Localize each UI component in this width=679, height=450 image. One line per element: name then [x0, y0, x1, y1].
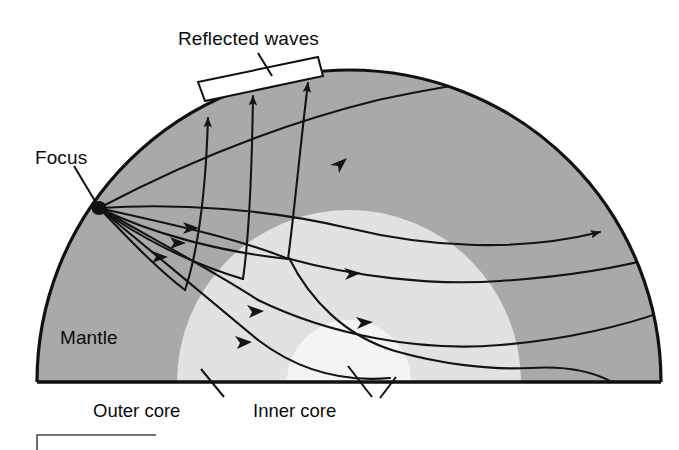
- focus-point-marker: [92, 201, 107, 215]
- caption-box-fragment: [37, 435, 156, 450]
- label-inner-core: Inner core: [253, 400, 336, 421]
- focus-marker-group: [92, 201, 107, 215]
- label-focus: Focus: [35, 147, 87, 168]
- caption-rule: [37, 435, 156, 450]
- label-reflected-waves: Reflected waves: [178, 28, 319, 49]
- label-mantle: Mantle: [60, 327, 118, 348]
- seismic-wave-diagram: Reflected waves Focus Mantle Outer core …: [0, 0, 679, 450]
- figure-root: Reflected waves Focus Mantle Outer core …: [0, 0, 679, 450]
- leader-focus: [74, 166, 98, 206]
- label-outer-core: Outer core: [93, 400, 180, 421]
